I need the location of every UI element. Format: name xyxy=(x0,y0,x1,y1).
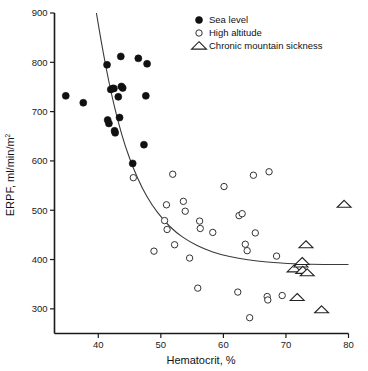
data-point-marker xyxy=(151,248,157,254)
x-tick-label: 50 xyxy=(156,339,167,350)
data-point-marker xyxy=(115,93,122,100)
data-point-marker xyxy=(265,297,271,303)
data-point-marker xyxy=(140,141,147,148)
data-point-marker xyxy=(315,306,329,313)
data-point-marker xyxy=(119,84,126,91)
y-axis-title: ERPF, ml/min/m2 xyxy=(4,133,16,216)
data-point-marker xyxy=(197,225,203,231)
data-point-marker xyxy=(112,129,119,136)
data-point-marker xyxy=(161,217,167,223)
data-point-marker xyxy=(129,160,136,167)
data-point-marker xyxy=(170,171,176,177)
legend-marker-triangle-icon xyxy=(192,42,207,49)
data-point-marker xyxy=(196,218,202,224)
data-point-marker xyxy=(244,247,250,253)
data-point-marker xyxy=(130,174,136,180)
scatter-plot-figure: 300400500600700800900 4050607080 Hematoc… xyxy=(0,0,368,371)
plot-canvas: 300400500600700800900 4050607080 Hematoc… xyxy=(0,0,368,371)
data-point-marker xyxy=(180,198,186,204)
x-tick-label: 60 xyxy=(218,339,229,350)
data-point-marker xyxy=(135,55,142,62)
data-point-marker xyxy=(117,53,124,60)
data-point-marker xyxy=(210,229,216,235)
legend-item-label: High altitude xyxy=(209,27,262,38)
y-axis-title-group: ERPF, ml/min/m2 xyxy=(4,133,16,216)
data-point-marker xyxy=(279,292,285,298)
data-point-marker xyxy=(295,258,309,265)
data-point-marker xyxy=(142,92,149,99)
x-axis-ticks: 4050607080 xyxy=(93,334,354,351)
legend-item-label: Chronic mountain sickness xyxy=(209,40,323,51)
data-point-marker xyxy=(250,172,256,178)
series-high-altitude xyxy=(130,169,285,321)
data-point-marker xyxy=(273,253,279,259)
data-point-marker xyxy=(221,183,227,189)
y-tick-label: 800 xyxy=(32,57,48,68)
x-tick-label: 70 xyxy=(281,339,292,350)
data-point-marker xyxy=(266,169,272,175)
data-point-marker xyxy=(246,315,252,321)
data-point-marker xyxy=(171,242,177,248)
data-point-marker xyxy=(163,202,169,208)
x-axis-title: Hematocrit, % xyxy=(166,354,235,366)
data-point-marker xyxy=(144,60,151,67)
y-tick-label: 500 xyxy=(32,205,48,216)
data-point-marker xyxy=(252,230,258,236)
legend-marker-open-circle-icon xyxy=(196,30,202,36)
data-point-marker xyxy=(186,255,192,261)
data-point-marker xyxy=(116,114,123,121)
axes-group xyxy=(55,13,349,334)
data-point-marker xyxy=(62,92,69,99)
data-point-marker xyxy=(242,241,248,247)
data-point-marker xyxy=(337,200,351,207)
data-point-marker xyxy=(110,85,117,92)
legend-marker-filled-circle-icon xyxy=(196,17,203,24)
x-tick-label: 80 xyxy=(343,339,354,350)
legend: Sea levelHigh altitudeChronic mountain s… xyxy=(192,14,323,51)
y-axis-ticks: 300400500600700800900 xyxy=(32,7,55,314)
data-point-marker xyxy=(105,120,112,127)
y-tick-label: 900 xyxy=(32,7,48,18)
data-point-marker xyxy=(164,226,170,232)
y-tick-label: 300 xyxy=(32,303,48,314)
data-point-marker xyxy=(182,208,188,214)
series-chronic-mountain-sickness xyxy=(287,200,351,312)
data-point-marker xyxy=(235,289,241,295)
y-tick-label: 400 xyxy=(32,254,48,265)
data-point-marker xyxy=(299,241,313,248)
x-tick-label: 40 xyxy=(93,339,104,350)
data-point-marker xyxy=(239,210,245,216)
y-tick-label: 600 xyxy=(32,155,48,166)
data-point-marker xyxy=(290,294,304,301)
data-point-marker xyxy=(195,285,201,291)
data-point-marker xyxy=(80,99,87,106)
legend-item-label: Sea level xyxy=(209,14,248,25)
data-point-marker xyxy=(104,61,111,68)
y-tick-label: 700 xyxy=(32,106,48,117)
